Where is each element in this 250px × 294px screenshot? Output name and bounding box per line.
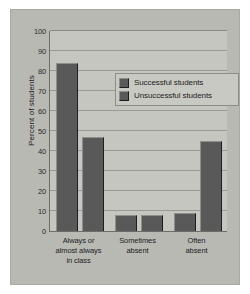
x-axis-labels: Always oralmost alwaysin classSometimesa… [49,236,227,282]
y-tick-label: 0 [42,227,46,236]
y-tick-label: 30 [38,167,46,176]
bar [200,141,222,231]
legend-swatch-icon [119,91,129,101]
gridline [50,30,227,31]
legend-swatch-icon [119,78,129,88]
y-tick-label: 50 [38,127,46,136]
x-axis-label-line: in class [44,256,113,266]
x-axis-label: Oftenabsent [162,236,231,256]
y-tick-label: 80 [38,67,46,76]
bar [174,213,196,231]
bar [115,215,137,231]
bar [141,215,163,231]
legend-label: Successful students [134,78,203,87]
gridline [50,50,227,51]
y-tick-label: 40 [38,147,46,156]
y-tick-label: 90 [38,47,46,56]
legend-item: Unsuccessful students [119,89,235,102]
x-axis-label-line: Often [162,236,231,246]
x-axis-label-line: absent [162,246,231,256]
legend-item: Successful students [119,76,235,89]
bar [56,63,78,231]
chart-legend: Successful studentsUnsuccessful students [115,73,239,106]
plot-area [49,31,227,232]
legend-label: Unsuccessful students [134,91,212,100]
y-axis-ticks: 0102030405060708090100 [21,31,46,232]
y-tick-label: 100 [34,27,46,36]
y-tick-label: 70 [38,87,46,96]
y-tick-label: 20 [38,187,46,196]
y-tick-label: 10 [38,207,46,216]
chart-figure: Percent of students 01020304050607080901… [0,0,250,294]
bar [82,137,104,231]
y-tick-label: 60 [38,107,46,116]
chart-card: Percent of students 01020304050607080901… [10,9,240,285]
